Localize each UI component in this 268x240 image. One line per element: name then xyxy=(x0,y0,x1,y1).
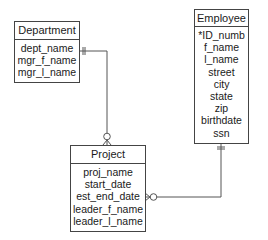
entity-employee[interactable]: Employee *ID_numb f_name l_name street c… xyxy=(194,9,249,144)
attribute: state xyxy=(195,90,248,102)
attribute: proj_name xyxy=(71,166,145,178)
attribute: leader_l_name xyxy=(71,215,145,227)
entity-project[interactable]: Project proj_name start_date est_end_dat… xyxy=(70,145,146,232)
attribute: city xyxy=(195,78,248,90)
attribute-list: *ID_numb f_name l_name street city state… xyxy=(195,27,248,141)
attribute: street xyxy=(195,66,248,78)
relationship-employee-project xyxy=(145,143,225,201)
attribute: f_name xyxy=(195,41,248,53)
attribute: mgr_l_name xyxy=(15,66,79,78)
attribute: l_name xyxy=(195,53,248,65)
attribute-list: proj_name start_date est_end_date leader… xyxy=(71,164,145,229)
attribute: leader_f_name xyxy=(71,203,145,215)
attribute: dept_name xyxy=(15,42,79,54)
attribute-list: dept_name mgr_f_name mgr_l_name xyxy=(15,40,79,81)
attribute: *ID_numb xyxy=(195,29,248,41)
entity-title: Project xyxy=(71,146,145,164)
attribute: est_end_date xyxy=(71,190,145,202)
entity-title: Employee xyxy=(195,10,248,27)
attribute: start_date xyxy=(71,178,145,190)
attribute: birthdate xyxy=(195,114,248,126)
entity-title: Department xyxy=(15,22,79,40)
entity-department[interactable]: Department dept_name mgr_f_name mgr_l_na… xyxy=(14,21,80,83)
attribute: ssn xyxy=(195,127,248,139)
attribute: zip xyxy=(195,102,248,114)
attribute: mgr_f_name xyxy=(15,54,79,66)
relationship-department-project xyxy=(79,47,111,145)
